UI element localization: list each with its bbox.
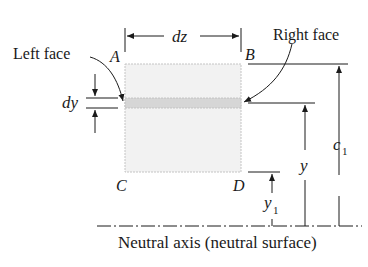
y1-subscript: 1 [273,204,279,216]
corner-b-label: B [245,46,255,63]
c1-subscript: 1 [342,145,348,157]
dy-dimension [86,74,118,133]
neutral-axis-label: Neutral axis (neutral surface) [118,233,317,252]
dy-label: dy [62,93,79,112]
y-label: y [298,156,308,175]
dz-label: dz [172,27,188,46]
corner-c-label: C [116,177,127,194]
element-block [125,64,241,172]
left-face-label: Left face [13,45,70,62]
corner-a-label: A [109,48,120,65]
beam-element-diagram: dz A B C D Left face Right face dy c 1 y… [0,0,368,267]
y1-label: y [262,193,272,212]
c1-label: c [333,135,341,154]
right-face-label: Right face [273,26,339,44]
differential-strip [125,98,241,108]
corner-d-label: D [232,177,245,194]
